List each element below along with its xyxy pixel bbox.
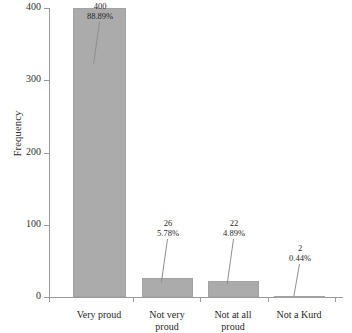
x-tick-mark (268, 297, 269, 302)
y-tick-mark (44, 80, 49, 81)
data-label-not-at-all-proud: 22 4.89% (194, 218, 274, 238)
data-label-percent: 0.44% (260, 253, 340, 263)
data-label-count: 22 (194, 218, 274, 228)
bar-not-very-proud[interactable] (142, 278, 193, 297)
category-line-1: Not at all (214, 309, 251, 320)
category-line-1: Not a Kurd (277, 309, 322, 320)
leader-line (161, 239, 168, 283)
category-line-2: proud (221, 321, 244, 332)
data-label-percent: 88.89% (60, 11, 140, 21)
data-label-percent: 4.89% (194, 228, 274, 238)
category-line-1: Not very (149, 309, 184, 320)
y-axis-line (49, 8, 50, 297)
y-tick-label: 300 (26, 73, 41, 84)
y-tick-200: 200 (3, 153, 49, 154)
x-tick-mark (133, 297, 134, 302)
y-tick-label: 400 (26, 1, 41, 12)
bar-not-a-kurd[interactable] (274, 296, 325, 298)
x-category-label-not-a-kurd: Not a Kurd (259, 309, 339, 321)
category-line-2: proud (155, 321, 178, 332)
leader-line (293, 264, 300, 297)
y-tick-mark (44, 153, 49, 154)
x-tick-mark (200, 297, 201, 302)
y-tick-mark (44, 225, 49, 226)
y-tick-0: 0 (3, 297, 49, 298)
y-axis-title: Frequency (12, 79, 23, 189)
bar-very-proud[interactable] (73, 8, 126, 297)
data-label-not-a-kurd: 2 0.44% (260, 243, 340, 263)
y-tick-label: 100 (26, 218, 41, 229)
y-tick-label: 200 (26, 146, 41, 157)
y-tick-label: 0 (36, 290, 41, 301)
category-line-1: Very proud (77, 309, 122, 320)
bar-not-at-all-proud[interactable] (208, 281, 259, 297)
data-label-very-proud: 400 88.89% (60, 1, 140, 21)
plot-area: 400 300 200 100 0 (49, 8, 343, 297)
bar-chart: Frequency 400 300 200 100 0 (0, 0, 352, 333)
y-tick-400: 400 (3, 8, 49, 9)
y-tick-mark (44, 8, 49, 9)
y-tick-300: 300 (3, 80, 49, 81)
data-label-count: 400 (60, 1, 140, 11)
data-label-count: 2 (260, 243, 340, 253)
leader-line (227, 239, 234, 285)
x-tick-mark (335, 297, 336, 302)
x-tick-mark (49, 297, 50, 302)
y-tick-100: 100 (3, 225, 49, 226)
